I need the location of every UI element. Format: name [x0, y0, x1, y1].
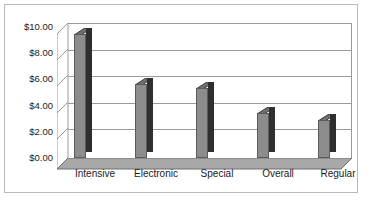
x-axis: Intensive Electronic Special Overall Reg…	[57, 5, 357, 190]
y-tick-label: $10.00	[24, 22, 53, 32]
y-tick-label: $8.00	[29, 48, 53, 58]
y-tick-label: $4.00	[29, 101, 53, 111]
x-tick-label-regular: Regular	[298, 168, 368, 179]
y-axis: $10.00 $8.00 $6.00 $4.00 $2.00 $0.00	[5, 23, 53, 173]
y-tick-label: $6.00	[29, 74, 53, 84]
y-tick-label: $2.00	[29, 127, 53, 137]
chart-frame: $10.00 $8.00 $6.00 $4.00 $2.00 $0.00	[4, 4, 358, 193]
y-tick-label: $0.00	[29, 153, 53, 163]
